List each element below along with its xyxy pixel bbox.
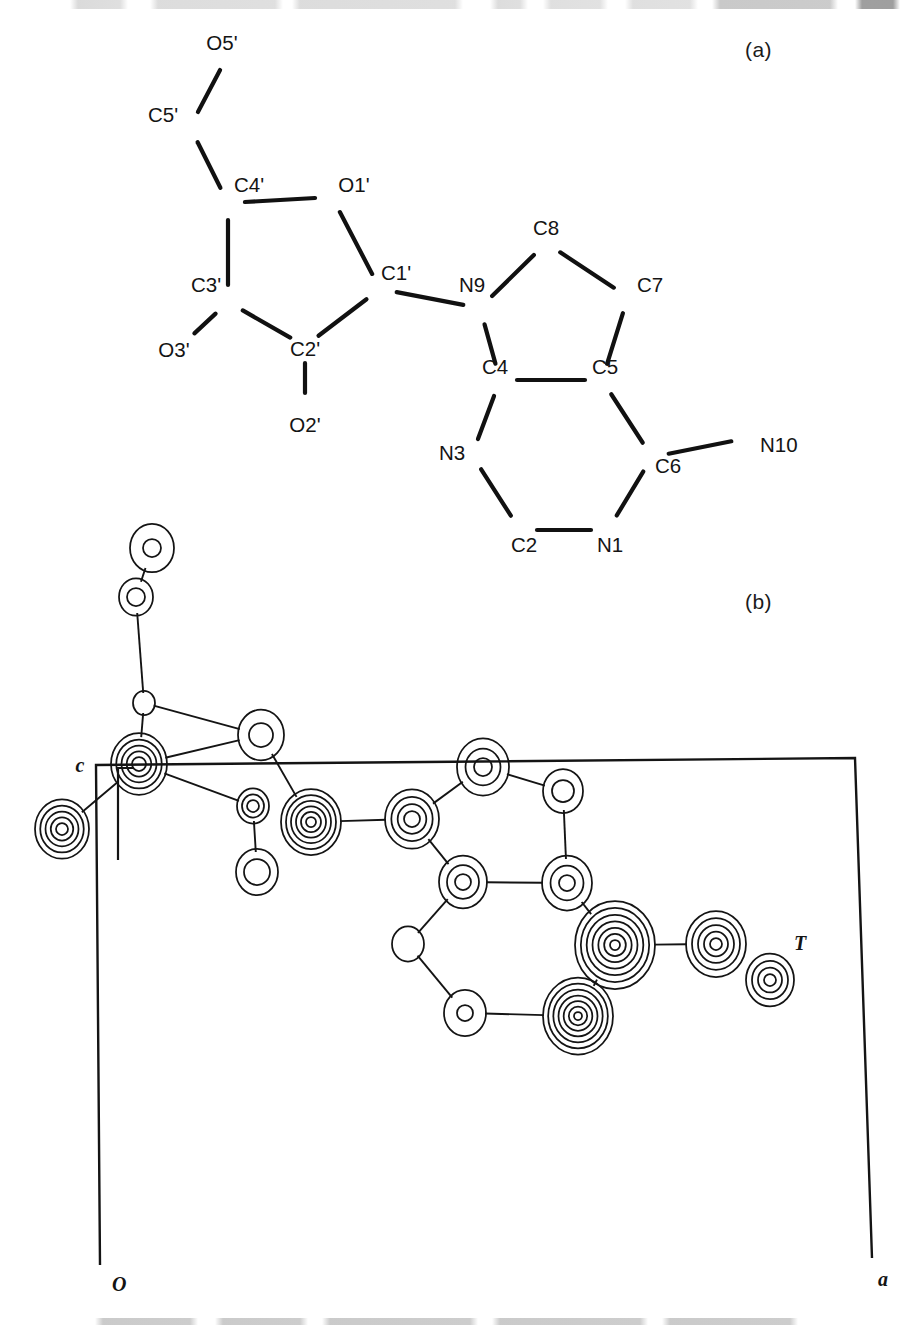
contour-ring [40, 806, 84, 853]
contour-ring [281, 789, 341, 855]
contour-ring [51, 817, 74, 840]
figure-canvas: O5'C5'C4'O1'C1'C2'C3'O3'O2'N9C8C7C5C4N3C… [0, 0, 903, 1325]
density-bond-C2-N1 [485, 1014, 544, 1016]
bond-N9-C8 [492, 255, 534, 296]
contour-atom-O5p [130, 524, 174, 572]
contour-atom-C1p [237, 788, 269, 823]
panel-a-atom-labels: O5'C5'C4'O1'C1'C2'C3'O3'O2'N9C8C7C5C4N3C… [148, 31, 798, 556]
atom-label-N9: N9 [459, 273, 485, 296]
density-bond-C4-N3 [418, 899, 448, 933]
contour-ring [238, 710, 284, 761]
bond-O5'-C5' [198, 70, 220, 112]
atom-label-O3p: O3' [158, 338, 189, 361]
atom-label-C5p: C5' [148, 103, 178, 126]
atom-label-N10: N10 [760, 433, 798, 456]
atom-label-N1: N1 [597, 533, 623, 556]
contour-ring [553, 990, 602, 1043]
contour-ring [758, 968, 782, 993]
contour-atom-C7 [543, 769, 583, 813]
contour-ring [447, 865, 479, 899]
contour-atom-C8 [457, 738, 509, 795]
panel-b-contour-atoms [35, 524, 794, 1055]
atom-label-O2p: O2' [289, 413, 320, 436]
density-bond-O1'-C2' [272, 754, 297, 797]
contour-ring [559, 875, 575, 891]
contour-ring [551, 866, 584, 901]
contour-atom-O1p [238, 710, 284, 761]
atom-label-C6: C6 [655, 454, 681, 477]
bond-O1'-C1' [340, 212, 372, 274]
contour-ring [686, 911, 746, 977]
contour-ring [569, 1007, 587, 1026]
contour-atom-N9 [385, 789, 439, 848]
axis-label-a: a [878, 1268, 888, 1290]
unit-cell-outline [96, 758, 872, 1265]
contour-ring [286, 795, 336, 849]
contour-ring [764, 974, 776, 986]
bond-C6-N10 [669, 441, 732, 453]
contour-ring [143, 539, 161, 557]
bond-C4'-O1' [245, 198, 315, 202]
contour-ring [552, 780, 574, 802]
contour-atom-N10 [686, 911, 746, 977]
contour-ring [587, 915, 644, 975]
density-bond-C7-C5 [564, 810, 566, 859]
bond-C6-C5 [611, 394, 642, 442]
contour-atom-N3 [392, 926, 424, 961]
atom-label-C4p: C4' [234, 173, 264, 196]
bond-C2'-C3' [243, 310, 290, 337]
axis-label-c: c [76, 754, 85, 776]
atom-label-C8: C8 [533, 216, 559, 239]
contour-ring [301, 812, 321, 832]
contour-ring [704, 932, 728, 957]
panel-a-molecular-diagram: O5'C5'C4'O1'C1'C2'C3'O3'O2'N9C8C7C5C4N3C… [148, 31, 798, 556]
density-bond-C3'-O1' [165, 740, 239, 758]
atom-label-C2p: C2' [290, 337, 320, 360]
density-bond-C5-C4 [486, 882, 543, 883]
contour-ring [249, 723, 273, 747]
contour-ring [247, 800, 259, 812]
bond-N3-C2 [481, 469, 511, 515]
bond-C1'-C2' [319, 299, 367, 335]
unit-cell-box [96, 758, 872, 1265]
contour-ring [455, 874, 471, 890]
axis-label-origin: O [112, 1273, 126, 1295]
c-axis-bracket [118, 768, 134, 860]
contour-ring [236, 849, 278, 895]
atom-label-N3: N3 [439, 441, 465, 464]
contour-atom-N1 [543, 978, 613, 1055]
contour-ring [581, 908, 649, 982]
contour-ring [404, 811, 420, 827]
panel-b-bonds [82, 568, 687, 1015]
contour-atom-C2 [444, 990, 486, 1036]
atom-label-C3p: C3' [191, 273, 221, 296]
bond-C4-N3 [478, 396, 494, 439]
contour-ring [610, 940, 620, 950]
contour-atom-C4p [133, 691, 155, 715]
density-bond-C4-N9 [428, 839, 448, 864]
site-label-t: T [794, 932, 807, 954]
bond-C5'-C4' [198, 142, 221, 188]
atom-label-C1p: C1' [381, 261, 411, 284]
atom-label-C7: C7 [637, 273, 663, 296]
density-bond-N3-C2 [418, 956, 453, 998]
bond-C8-C7 [560, 252, 614, 287]
contour-ring [466, 749, 501, 786]
contour-ring [130, 524, 174, 572]
contour-ring [444, 990, 486, 1036]
contour-ring [244, 859, 270, 885]
bond-C1'-N9 [397, 292, 464, 305]
panel-b-contour-map: cOaT [35, 524, 888, 1295]
contour-atom-T [746, 954, 794, 1007]
atom-label-O1p: O1' [338, 173, 369, 196]
contour-ring [56, 823, 68, 835]
contour-atom-C4 [439, 856, 487, 909]
density-bond-C4'-O1' [154, 706, 240, 730]
atom-label-C5: C5 [592, 355, 618, 378]
contour-atom-O2p [236, 849, 278, 895]
panel-a-label: (a) [745, 38, 772, 62]
density-bond-C5'-C4' [137, 613, 143, 693]
contour-ring [457, 1005, 473, 1021]
contour-atom-C6 [575, 901, 655, 989]
contour-ring [710, 938, 722, 950]
